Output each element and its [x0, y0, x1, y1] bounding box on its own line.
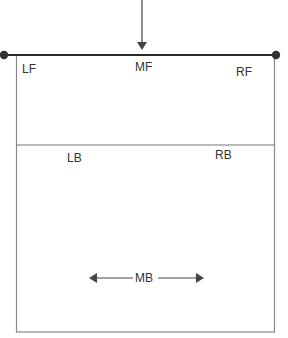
- court-diagram: [0, 0, 288, 338]
- position-lb: LB: [67, 152, 82, 164]
- net-post-left-icon: [0, 51, 8, 59]
- position-mf: MF: [135, 61, 152, 73]
- position-mb: MB: [135, 272, 153, 284]
- net-post-right-icon: [272, 51, 280, 59]
- position-lf: LF: [22, 63, 36, 75]
- position-rb: RB: [215, 149, 232, 161]
- court-boundary: [17, 55, 275, 332]
- position-rf: RF: [236, 66, 252, 78]
- down-arrow-icon: [137, 0, 147, 50]
